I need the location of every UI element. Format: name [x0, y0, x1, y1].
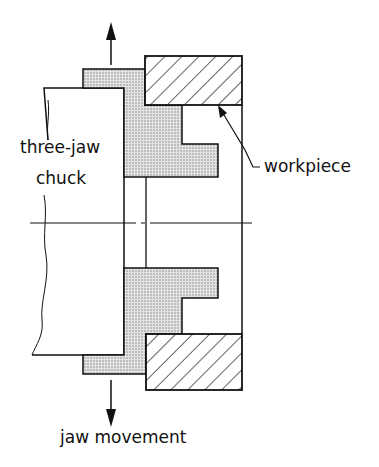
- chuck-label-line2: chuck: [36, 168, 86, 188]
- jaw-movement-up-arrow: [106, 22, 116, 65]
- workpiece-upper-section: [145, 56, 242, 105]
- workpiece-label: workpiece: [264, 156, 351, 176]
- chuck-label-line1: three-jaw: [20, 137, 100, 157]
- jaw-movement-down-arrow: [106, 380, 116, 427]
- chuck-diagram: three-jaw chuck workpiece jaw movement: [0, 0, 379, 467]
- workpiece-lower-section: [146, 334, 242, 390]
- three-jaw-chuck-body: [32, 88, 124, 355]
- jaw-movement-label: jaw movement: [59, 427, 187, 447]
- workpiece-leader: [218, 105, 260, 167]
